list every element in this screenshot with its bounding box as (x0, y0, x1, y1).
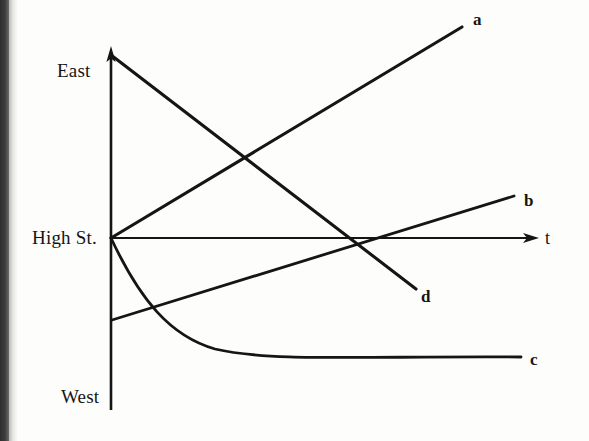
x-axis-group (111, 233, 539, 243)
curve-label-c: c (530, 351, 538, 368)
curve-label-b: b (524, 192, 533, 209)
curve-label-d: d (421, 288, 430, 305)
y-axis-label-east: East (57, 61, 91, 80)
y-axis-group (106, 46, 115, 410)
curve-label-a: a (473, 11, 482, 28)
curve-a (111, 27, 462, 238)
curve-d (111, 55, 416, 289)
y-axis-label-origin: High St. (32, 228, 97, 247)
x-axis-label-t: t (545, 229, 550, 247)
curve-b (112, 196, 514, 320)
figure-canvas: East High St. West t a b c d (0, 0, 589, 441)
y-axis-label-west: West (61, 387, 99, 406)
